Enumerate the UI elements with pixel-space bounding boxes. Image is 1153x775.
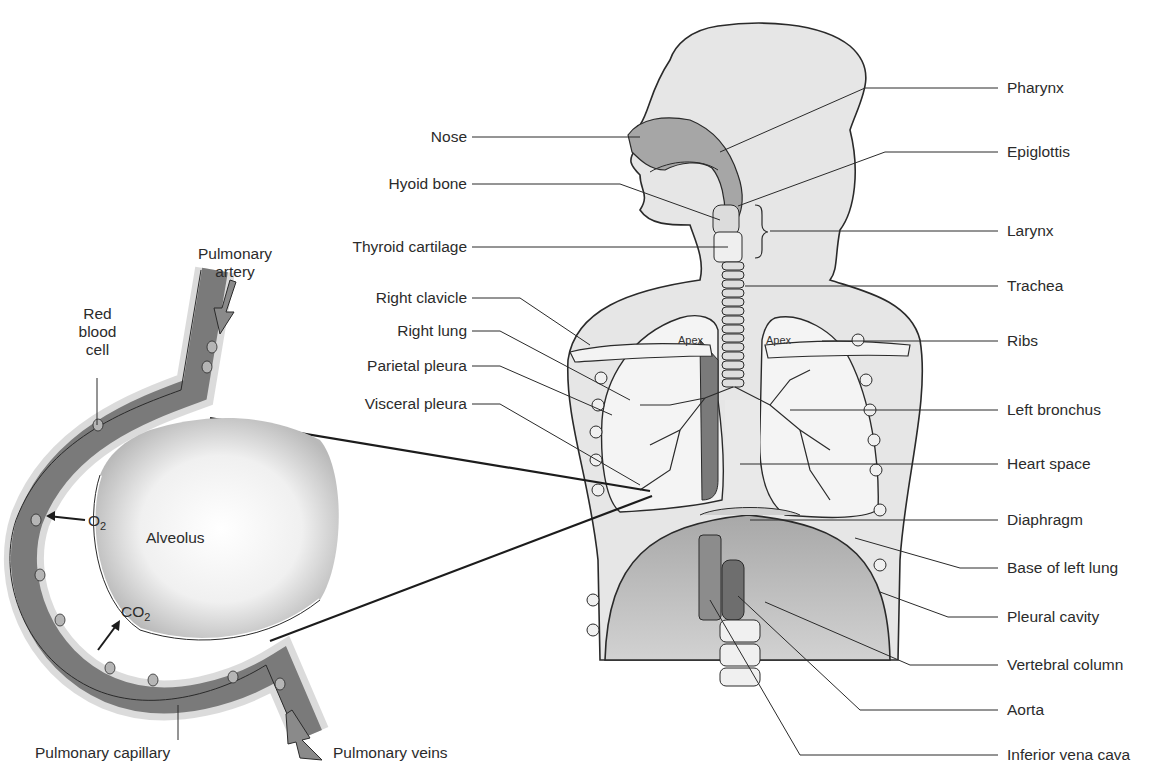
label-co2: CO2 bbox=[121, 603, 150, 622]
label-ribs: Ribs bbox=[1007, 332, 1038, 350]
label-hyoid-bone: Hyoid bone bbox=[389, 175, 467, 193]
label-alveolus: Alveolus bbox=[146, 529, 205, 547]
label-inferior-vena-cava: Inferior vena cava bbox=[1007, 746, 1130, 764]
label-heart-space: Heart space bbox=[1007, 455, 1091, 473]
label-vertebral-column: Vertebral column bbox=[1007, 656, 1123, 674]
label-pulmonary-capillary: Pulmonary capillary bbox=[35, 744, 170, 762]
label-left-bronchus: Left bronchus bbox=[1007, 401, 1101, 419]
label-visceral-pleura: Visceral pleura bbox=[365, 395, 467, 413]
label-nose: Nose bbox=[431, 128, 467, 146]
aorta-shape bbox=[722, 560, 744, 620]
label-pulmonary-artery: Pulmonary artery bbox=[185, 245, 285, 281]
label-base-of-left-lung: Base of left lung bbox=[1007, 559, 1118, 577]
inferior-vena-cava-shape bbox=[699, 535, 721, 620]
label-right-lung: Right lung bbox=[397, 322, 467, 340]
label-red-blood-cell: Red blood cell bbox=[70, 305, 125, 359]
label-diaphragm: Diaphragm bbox=[1007, 511, 1083, 529]
label-apex-right: Apex bbox=[678, 334, 703, 346]
label-pulmonary-veins: Pulmonary veins bbox=[333, 744, 448, 762]
label-apex-left: Apex bbox=[766, 334, 791, 346]
heart-space-shape bbox=[725, 400, 760, 500]
label-o2: O2 bbox=[88, 512, 106, 531]
label-right-clavicle: Right clavicle bbox=[376, 289, 467, 307]
alveolus-inset bbox=[10, 270, 339, 760]
label-parietal-pleura: Parietal pleura bbox=[367, 357, 467, 375]
label-thyroid-cartilage: Thyroid cartilage bbox=[352, 238, 467, 256]
label-aorta: Aorta bbox=[1007, 701, 1044, 719]
label-trachea: Trachea bbox=[1007, 277, 1063, 295]
label-larynx: Larynx bbox=[1007, 222, 1054, 240]
label-pharynx: Pharynx bbox=[1007, 79, 1064, 97]
label-pleural-cavity: Pleural cavity bbox=[1007, 608, 1099, 626]
respiratory-diagram-art bbox=[0, 0, 1153, 775]
label-epiglottis: Epiglottis bbox=[1007, 143, 1070, 161]
